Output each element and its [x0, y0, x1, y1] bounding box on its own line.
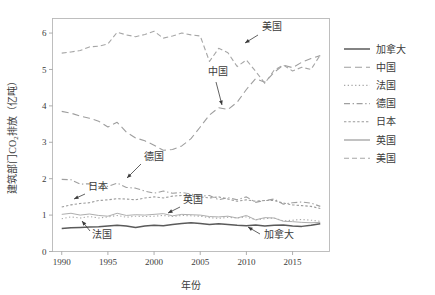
x-tick-label: 2015	[284, 257, 303, 267]
legend-label-法国: 法国	[376, 79, 396, 91]
x-tick-label: 1995	[99, 257, 118, 267]
y-tick-label: 6	[42, 28, 47, 38]
y-tick-label: 0	[42, 247, 47, 257]
y-tick-label: 2	[42, 174, 47, 184]
annotation-label-美国: 美国	[262, 20, 282, 32]
x-tick-label: 2010	[237, 257, 256, 267]
x-tick-label: 1990	[53, 257, 72, 267]
legend-label-加拿大: 加拿大	[376, 43, 406, 55]
annotation-label-法国: 法国	[92, 228, 112, 240]
x-tick-label: 2005	[191, 257, 210, 267]
y-tick-label: 1	[42, 210, 47, 220]
x-axis-title: 年份	[181, 279, 201, 291]
figure-background	[0, 0, 435, 295]
legend-label-德国: 德国	[376, 97, 396, 109]
chart-container: 0123456 199019952000200520102015 美国中国德国日…	[0, 0, 435, 295]
emissions-line-chart: 0123456 199019952000200520102015 美国中国德国日…	[0, 0, 435, 295]
legend-label-英国: 英国	[376, 134, 396, 146]
annotation-label-加拿大: 加拿大	[264, 228, 294, 240]
annotation-label-中国: 中国	[208, 65, 228, 77]
annotation-label-日本: 日本	[88, 180, 108, 192]
legend-label-中国: 中国	[376, 61, 396, 73]
annotation-label-英国: 英国	[183, 193, 203, 205]
y-tick-label: 3	[42, 137, 47, 147]
y-tick-label: 5	[42, 65, 47, 75]
x-tick-label: 2000	[145, 257, 164, 267]
y-tick-label: 4	[42, 101, 47, 111]
annotation-label-德国: 德国	[144, 150, 164, 162]
legend-label-日本: 日本	[376, 115, 396, 127]
legend-label-美国: 美国	[376, 152, 396, 164]
